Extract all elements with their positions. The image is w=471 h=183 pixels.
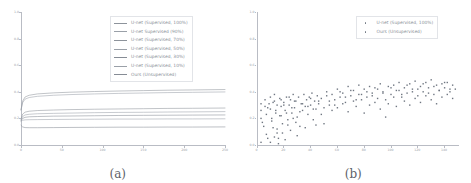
scatter-point	[293, 100, 294, 101]
legend-label: U-net Supervised (90%)	[131, 30, 183, 34]
scatter-point	[269, 142, 270, 143]
legend-label: U-net (Supervised, 100%)	[377, 21, 434, 25]
x-tick-label: 150	[136, 148, 150, 152]
x-tick-mark	[257, 146, 258, 148]
x-tick-label: 20	[276, 148, 290, 152]
scatter-point	[260, 118, 261, 119]
y-tick-label: 1.0	[241, 10, 255, 14]
y-tick-mark	[255, 92, 257, 93]
scatter-point	[446, 94, 447, 95]
legend-item: U-net Supervised (90%)	[114, 28, 188, 37]
scatter-point	[289, 130, 290, 131]
x-tick-mark	[391, 146, 392, 148]
scatter-point	[366, 91, 367, 92]
legend-marker-icon	[360, 21, 373, 26]
scatter-point	[328, 104, 329, 105]
scatter-point	[334, 104, 335, 105]
scatter-point	[308, 96, 309, 97]
panel-a: 0.00.20.40.60.81.0050100150200250 U-net …	[0, 0, 236, 183]
y-tick-label: 0.4	[5, 90, 19, 94]
scatter-point	[271, 120, 272, 121]
panel-a-plot-area: 0.00.20.40.60.81.0050100150200250 U-net …	[0, 0, 236, 158]
legend-item: U-net (Supervised, 30%)	[114, 53, 188, 62]
scatter-point	[379, 83, 380, 84]
scatter-point	[443, 82, 444, 83]
scatter-point	[441, 96, 442, 97]
panel-a-caption: (a)	[0, 167, 236, 181]
line-series	[21, 115, 225, 121]
scatter-point	[336, 107, 337, 108]
scatter-point	[295, 122, 296, 123]
y-tick-label: 0.2	[5, 116, 19, 120]
x-tick-label: 200	[177, 148, 191, 152]
scatter-point	[334, 99, 335, 100]
y-tick-mark	[19, 118, 21, 119]
scatter-point	[273, 94, 274, 95]
legend-label: U-net (Supervised, 100%)	[131, 21, 188, 25]
scatter-point	[433, 94, 434, 95]
scatter-point	[398, 90, 399, 91]
scatter-point	[284, 110, 285, 111]
scatter-point	[325, 95, 326, 96]
legend-label: U-net (Supervised, 10%)	[131, 64, 185, 68]
scatter-point	[387, 86, 388, 87]
scatter-point	[320, 114, 321, 115]
scatter-point	[288, 104, 289, 105]
scatter-point	[406, 84, 407, 85]
legend-line-swatch-icon	[114, 49, 127, 50]
scatter-point	[390, 94, 391, 95]
legend-item: U-net (Supervised, 100%)	[360, 19, 434, 28]
scatter-point	[260, 103, 261, 104]
y-tick-mark	[19, 12, 21, 13]
scatter-point	[291, 107, 292, 108]
scatter-point	[307, 106, 308, 107]
scatter-point	[360, 94, 361, 95]
y-tick-label: 0.8	[241, 37, 255, 41]
scatter-point	[312, 108, 313, 109]
scatter-point	[451, 84, 452, 85]
scatter-point	[360, 99, 361, 100]
scatter-point	[283, 102, 284, 103]
scatter-point	[276, 132, 277, 133]
scatter-point	[292, 94, 293, 95]
legend-label: U-net (Supervised, 70%)	[131, 38, 185, 42]
y-tick-mark	[19, 92, 21, 93]
panel-b-caption: (b)	[236, 167, 471, 181]
scatter-point	[430, 79, 431, 80]
scatter-point	[301, 103, 302, 104]
scatter-point	[264, 99, 265, 100]
scatter-point	[433, 86, 434, 87]
y-tick-label: 0.4	[241, 90, 255, 94]
scatter-point	[325, 91, 326, 92]
y-tick-mark	[255, 118, 257, 119]
scatter-point	[331, 110, 332, 111]
scatter-point	[438, 90, 439, 91]
scatter-point	[366, 96, 367, 97]
scatter-point	[271, 118, 272, 119]
scatter-point	[390, 87, 391, 88]
scatter-point	[443, 87, 444, 88]
legend-line-swatch-icon	[114, 66, 127, 67]
scatter-point	[422, 83, 423, 84]
panel-b-plot-area: 0.00.20.40.60.81.0020406080100120140 U-n…	[236, 0, 471, 158]
scatter-point	[417, 95, 418, 96]
scatter-point	[350, 90, 351, 91]
y-tick-label: 0.8	[5, 37, 19, 41]
scatter-point	[352, 100, 353, 101]
scatter-point	[272, 102, 273, 103]
scatter-point	[295, 100, 296, 101]
scatter-point	[401, 94, 402, 95]
scatter-point	[368, 104, 369, 105]
x-tick-label: 100	[96, 148, 110, 152]
scatter-point	[279, 98, 280, 99]
scatter-point	[265, 114, 266, 115]
x-tick-mark	[184, 146, 185, 148]
scatter-point	[263, 126, 264, 127]
scatter-point	[374, 87, 375, 88]
scatter-point	[285, 112, 286, 113]
line-series	[21, 92, 225, 110]
scatter-point	[411, 88, 412, 89]
scatter-point	[311, 92, 312, 93]
x-tick-label: 250	[218, 148, 232, 152]
y-tick-label: 0.0	[5, 143, 19, 147]
